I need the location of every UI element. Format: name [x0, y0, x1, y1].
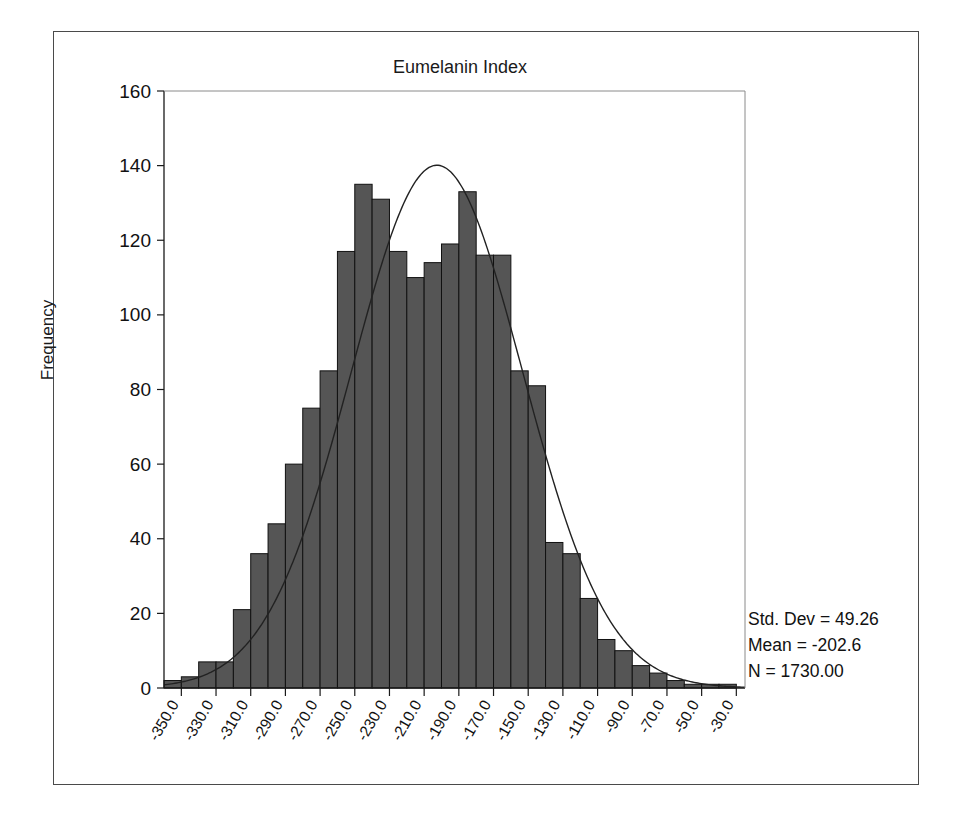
histogram-bar	[441, 244, 458, 688]
x-tick-label: -130.0	[527, 697, 564, 744]
histogram-bar	[511, 371, 528, 688]
y-tick-label: 160	[119, 81, 151, 102]
histogram-bar	[650, 673, 667, 688]
y-tick-label: 60	[130, 454, 151, 475]
histogram-bar	[580, 598, 597, 688]
histogram-bar	[528, 386, 545, 688]
histogram-bar	[546, 542, 563, 688]
y-axis-ticks: 020406080100120140160	[119, 81, 164, 699]
x-tick-label: -270.0	[284, 697, 321, 744]
x-tick-label: -150.0	[492, 697, 529, 744]
histogram-bar	[355, 184, 372, 688]
std-dev-text: Std. Dev = 49.26	[748, 606, 879, 632]
x-tick-label: -110.0	[562, 697, 598, 743]
x-tick-label: -190.0	[423, 697, 460, 744]
histogram-bars	[164, 184, 736, 688]
x-tick-label: -290.0	[249, 697, 286, 744]
histogram-bar	[459, 192, 476, 688]
sample-size-text: N = 1730.00	[748, 658, 879, 684]
y-tick-label: 0	[140, 678, 151, 699]
histogram-bar	[389, 251, 406, 688]
histogram-bar	[372, 199, 389, 688]
histogram-bar	[337, 251, 354, 688]
histogram-bar	[268, 524, 285, 688]
histogram-bar	[303, 408, 320, 688]
histogram-bar	[563, 554, 580, 688]
x-axis-ticks: -350.0-330.0-310.0-290.0-270.0-250.0-230…	[145, 688, 737, 744]
histogram-bar	[424, 263, 441, 688]
y-tick-label: 80	[130, 379, 151, 400]
histogram-bar	[632, 666, 649, 688]
x-tick-label: -330.0	[180, 697, 217, 744]
x-tick-label: -310.0	[215, 697, 252, 744]
histogram-bar	[667, 681, 684, 688]
x-tick-label: -350.0	[145, 697, 182, 744]
histogram-bar	[598, 639, 615, 688]
y-tick-label: 20	[130, 603, 151, 624]
histogram-bar	[216, 662, 233, 688]
histogram-plot: 020406080100120140160 -350.0-330.0-310.0…	[0, 0, 969, 824]
x-tick-label: -70.0	[635, 697, 668, 736]
x-tick-label: -90.0	[600, 697, 633, 736]
y-tick-label: 140	[119, 155, 151, 176]
y-tick-label: 120	[119, 230, 151, 251]
histogram-bar	[199, 662, 216, 688]
x-tick-label: -50.0	[670, 697, 703, 736]
y-tick-label: 40	[130, 528, 151, 549]
mean-text: Mean = -202.6	[748, 632, 879, 658]
x-tick-label: -250.0	[319, 697, 356, 744]
statistics-annotation: Std. Dev = 49.26 Mean = -202.6 N = 1730.…	[748, 606, 879, 684]
x-tick-label: -170.0	[457, 697, 494, 744]
y-tick-label: 100	[119, 304, 151, 325]
histogram-bar	[407, 278, 424, 688]
histogram-bar	[285, 464, 302, 688]
histogram-bar	[320, 371, 337, 688]
histogram-bar	[615, 651, 632, 688]
x-tick-label: -210.0	[388, 697, 425, 744]
x-tick-label: -30.0	[705, 697, 738, 736]
histogram-figure: Eumelanin Index Frequency 02040608010012…	[0, 0, 969, 824]
histogram-bar	[251, 554, 268, 688]
histogram-bar	[476, 255, 493, 688]
x-tick-label: -230.0	[353, 697, 390, 744]
